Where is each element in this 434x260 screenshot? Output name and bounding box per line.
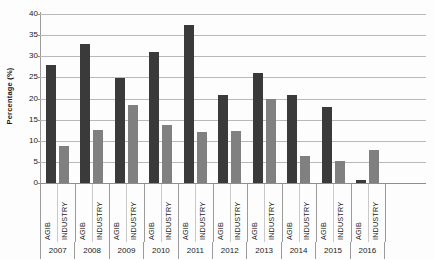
category-label-industry-2011: INDUSTRY bbox=[196, 184, 212, 242]
category-group-2009: AGIBINDUSTRY bbox=[110, 184, 145, 242]
bar-group-2014 bbox=[282, 14, 317, 183]
category-label-text: AGIB bbox=[181, 222, 190, 240]
category-label-text: INDUSTRY bbox=[95, 202, 104, 240]
category-group-2013: AGIBINDUSTRY bbox=[248, 184, 283, 242]
category-label-agib-2010: AGIB bbox=[145, 184, 162, 242]
category-label-agib-2007: AGIB bbox=[41, 184, 58, 242]
category-label-agib-2011: AGIB bbox=[179, 184, 196, 242]
category-group-2007: AGIBINDUSTRY bbox=[41, 184, 76, 242]
category-group-2014: AGIBINDUSTRY bbox=[283, 184, 318, 242]
year-label-2010: 2010 bbox=[144, 242, 178, 259]
bar-group-2015 bbox=[316, 14, 351, 183]
category-label-text: AGIB bbox=[319, 222, 328, 240]
bar-agib-2012 bbox=[218, 95, 228, 183]
year-label-band: 2007200820092010201120122013201420152016 bbox=[40, 242, 385, 259]
bar-industry-2007 bbox=[59, 146, 69, 183]
bar-agib-2011 bbox=[184, 25, 194, 183]
bar-industry-2012 bbox=[231, 131, 241, 183]
bar-group-2011 bbox=[178, 14, 213, 183]
bar-agib-2013 bbox=[253, 73, 263, 183]
bar-industry-2011 bbox=[197, 132, 207, 183]
bar-agib-2010 bbox=[149, 52, 159, 183]
bar-agib-2008 bbox=[80, 44, 90, 183]
bar-agib-2015 bbox=[322, 107, 332, 183]
bar-agib-2007 bbox=[46, 65, 56, 183]
bar-group-2009 bbox=[109, 14, 144, 183]
category-label-agib-2015: AGIB bbox=[317, 184, 334, 242]
category-label-text: AGIB bbox=[285, 222, 294, 240]
category-label-industry-2007: INDUSTRY bbox=[58, 184, 74, 242]
y-axis-tick-labels: 0510152025303540 bbox=[18, 0, 38, 190]
category-label-industry-2013: INDUSTRY bbox=[265, 184, 281, 242]
category-label-agib-2009: AGIB bbox=[110, 184, 127, 242]
bar-industry-2010 bbox=[162, 125, 172, 183]
category-label-text: AGIB bbox=[112, 222, 121, 240]
category-label-band: AGIBINDUSTRYAGIBINDUSTRYAGIBINDUSTRYAGIB… bbox=[40, 184, 385, 242]
bar-group-2012 bbox=[213, 14, 248, 183]
bar-chart: Percentage (%) 0510152025303540 AGIBINDU… bbox=[0, 0, 434, 260]
bar-industry-2013 bbox=[266, 99, 276, 184]
category-label-text: AGIB bbox=[43, 222, 52, 240]
y-axis-tick-label: 15 bbox=[18, 116, 38, 124]
category-label-text: AGIB bbox=[354, 222, 363, 240]
bar-group-2007 bbox=[40, 14, 75, 183]
category-label-industry-2016: INDUSTRY bbox=[369, 184, 385, 242]
bar-industry-2008 bbox=[93, 130, 103, 183]
category-label-text: AGIB bbox=[216, 222, 225, 240]
bar-agib-2009 bbox=[115, 78, 125, 183]
year-label-2008: 2008 bbox=[75, 242, 109, 259]
y-axis-tick-label: 30 bbox=[18, 52, 38, 60]
category-label-industry-2015: INDUSTRY bbox=[334, 184, 350, 242]
y-axis-tick-label: 40 bbox=[18, 10, 38, 18]
category-label-text: AGIB bbox=[78, 222, 87, 240]
y-axis-tick-label: 20 bbox=[18, 95, 38, 103]
category-label-text: INDUSTRY bbox=[302, 202, 311, 240]
y-axis-tick-label: 0 bbox=[18, 179, 38, 187]
category-label-industry-2010: INDUSTRY bbox=[162, 184, 178, 242]
year-label-2007: 2007 bbox=[41, 242, 75, 259]
category-label-text: AGIB bbox=[147, 222, 156, 240]
year-label-2015: 2015 bbox=[316, 242, 350, 259]
year-label-2013: 2013 bbox=[247, 242, 281, 259]
bar-group-2010 bbox=[144, 14, 179, 183]
category-label-text: INDUSTRY bbox=[336, 202, 345, 240]
category-label-industry-2012: INDUSTRY bbox=[231, 184, 247, 242]
category-label-text: INDUSTRY bbox=[164, 202, 173, 240]
category-group-2011: AGIBINDUSTRY bbox=[179, 184, 214, 242]
y-axis-tick-label: 10 bbox=[18, 137, 38, 145]
bar-industry-2015 bbox=[335, 161, 345, 183]
category-group-2010: AGIBINDUSTRY bbox=[145, 184, 180, 242]
category-label-industry-2009: INDUSTRY bbox=[127, 184, 143, 242]
bar-group-2013 bbox=[247, 14, 282, 183]
y-axis-tick-label: 35 bbox=[18, 31, 38, 39]
year-label-2011: 2011 bbox=[179, 242, 213, 259]
bar-industry-2014 bbox=[300, 156, 310, 183]
category-label-agib-2008: AGIB bbox=[76, 184, 93, 242]
year-label-2016: 2016 bbox=[351, 242, 385, 259]
year-label-2014: 2014 bbox=[282, 242, 316, 259]
category-group-2015: AGIBINDUSTRY bbox=[317, 184, 352, 242]
category-label-agib-2016: AGIB bbox=[352, 184, 369, 242]
year-label-2012: 2012 bbox=[213, 242, 247, 259]
category-label-industry-2014: INDUSTRY bbox=[300, 184, 316, 242]
y-axis-title-text: Percentage (%) bbox=[5, 68, 14, 125]
bar-series-container bbox=[40, 14, 385, 183]
bar-industry-2016 bbox=[369, 150, 379, 183]
category-label-text: INDUSTRY bbox=[129, 202, 138, 240]
category-label-text: INDUSTRY bbox=[371, 202, 380, 240]
bar-group-2008 bbox=[75, 14, 110, 183]
year-label-2009: 2009 bbox=[110, 242, 144, 259]
category-label-text: AGIB bbox=[250, 222, 259, 240]
y-axis-tick-label: 5 bbox=[18, 158, 38, 166]
category-label-row: AGIBINDUSTRYAGIBINDUSTRYAGIBINDUSTRYAGIB… bbox=[41, 184, 386, 242]
category-label-text: INDUSTRY bbox=[60, 202, 69, 240]
category-label-industry-2008: INDUSTRY bbox=[93, 184, 109, 242]
bar-agib-2014 bbox=[287, 95, 297, 183]
category-group-2008: AGIBINDUSTRY bbox=[76, 184, 111, 242]
category-label-text: INDUSTRY bbox=[233, 202, 242, 240]
category-label-text: INDUSTRY bbox=[198, 202, 207, 240]
category-group-2012: AGIBINDUSTRY bbox=[214, 184, 249, 242]
category-label-text: INDUSTRY bbox=[267, 202, 276, 240]
y-axis-title: Percentage (%) bbox=[1, 36, 17, 156]
category-label-agib-2012: AGIB bbox=[214, 184, 231, 242]
